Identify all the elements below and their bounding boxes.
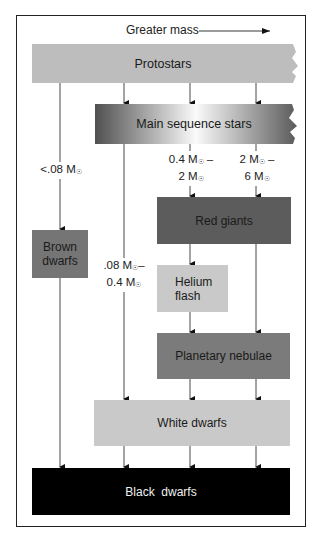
node-brown-dwarfs: Brown dwarfs — [32, 230, 88, 278]
mass-text: <.08 M — [40, 163, 75, 175]
white-dwarfs-label: White dwarfs — [157, 416, 226, 430]
solar-mass-symbol-icon: ☉ — [76, 168, 82, 175]
mass-label-2-to-6: 2 M☉ – 6 M☉ — [234, 152, 280, 186]
dash: – — [265, 153, 275, 165]
dash: – — [138, 259, 144, 271]
mass-text: 2 M — [240, 153, 259, 165]
node-white-dwarfs: White dwarfs — [94, 400, 290, 446]
mass-label-below-008: <.08 M☉ — [36, 162, 86, 179]
mass-label-04-to-2: 0.4 M☉ – 2 M☉ — [166, 152, 216, 186]
main-sequence-label: Main sequence stars — [136, 117, 251, 131]
helium-flash-label-1: Helium — [175, 275, 212, 289]
solar-mass-symbol-icon: ☉ — [198, 175, 204, 182]
mass-text: .08 M — [103, 259, 132, 271]
mass-label-008-to-04: .08 M☉– 0.4 M☉ — [100, 258, 148, 292]
node-protostars: Protostars — [32, 44, 294, 83]
black-dwarfs-label: Black dwarfs — [125, 485, 196, 499]
helium-flash-label-2: flash — [175, 289, 200, 303]
mass-text: 0.4 M — [107, 276, 136, 288]
mass-text: 0.4 M — [169, 153, 198, 165]
brown-dwarfs-label-1: Brown — [43, 240, 77, 254]
dash: – — [204, 153, 214, 165]
mass-text: 6 M — [244, 170, 263, 182]
node-planetary-nebulae: Planetary nebulae — [157, 333, 290, 379]
node-main-sequence-stars: Main sequence stars — [95, 104, 293, 144]
node-helium-flash: Helium flash — [157, 265, 228, 312]
solar-mass-symbol-icon: ☉ — [264, 175, 270, 182]
solar-mass-symbol-icon: ☉ — [135, 281, 141, 288]
mass-text: 2 M — [178, 170, 197, 182]
node-red-giants: Red giants — [157, 197, 291, 244]
protostars-label: Protostars — [135, 57, 192, 71]
planetary-nebulae-label: Planetary nebulae — [175, 349, 272, 363]
brown-dwarfs-label-2: dwarfs — [42, 254, 77, 268]
red-giants-label: Red giants — [195, 214, 252, 228]
node-black-dwarfs: Black dwarfs — [32, 468, 290, 515]
